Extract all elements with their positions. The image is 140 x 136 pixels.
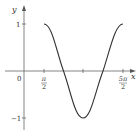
y-label-1: 1: [16, 21, 20, 29]
x-label-5pi-half-den: 2: [121, 83, 125, 91]
sine-graph: y x 0 1 −1 π 2 5π 2: [0, 0, 140, 136]
y-axis-label: y: [11, 5, 17, 14]
x-label-5pi-half-num: 5π: [119, 75, 128, 83]
x-label-pi-half-den: 2: [42, 83, 46, 91]
x-axis-label: x: [131, 72, 136, 81]
x-label-pi-half-num: π: [41, 75, 47, 83]
y-axis-arrow-icon: [22, 5, 26, 11]
origin-label: 0: [17, 75, 21, 83]
y-label-neg1: −1: [11, 115, 21, 123]
